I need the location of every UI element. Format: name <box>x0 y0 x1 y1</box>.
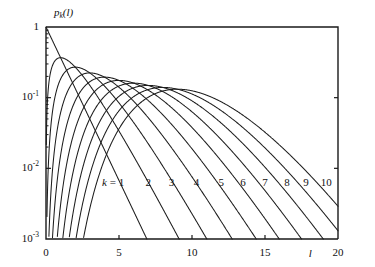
x-axis-title: l <box>309 247 312 259</box>
log-plot-canvas: 05101520110-110-210-3k = 12345678910pk(l… <box>0 0 375 267</box>
y-tick-label-1: 1 <box>34 20 40 32</box>
y-tick-label-0.001: 10-3 <box>22 230 39 244</box>
curve-k-9 <box>76 87 338 237</box>
curve-label-k-10: 10 <box>321 176 333 188</box>
y-tick-label-0.01: 10-2 <box>22 159 39 173</box>
curve-k-8 <box>69 85 323 239</box>
curve-k-6 <box>57 80 279 239</box>
curve-label-k-9: 9 <box>303 176 309 188</box>
curve-k-10 <box>84 89 338 237</box>
x-tick-label-20: 20 <box>333 246 345 258</box>
curve-label-k-4: 4 <box>194 176 200 188</box>
chart-figure: 05101520110-110-210-3k = 12345678910pk(l… <box>0 0 375 267</box>
x-tick-label-15: 15 <box>260 246 272 258</box>
curve-label-k-6: 6 <box>240 176 246 188</box>
y-tick-label-0.1: 10-1 <box>22 88 39 102</box>
curve-label-k-5: 5 <box>218 176 224 188</box>
curve-k-5 <box>52 77 256 239</box>
curve-label-k-2: 2 <box>145 176 151 188</box>
curve-k-3 <box>47 67 207 239</box>
curve-label-k-1: k = 1 <box>102 176 124 188</box>
x-tick-label-5: 5 <box>116 246 122 258</box>
curve-label-k-7: 7 <box>262 176 268 188</box>
curve-k-7 <box>63 83 302 239</box>
curve-k-1 <box>46 27 147 239</box>
x-tick-label-0: 0 <box>43 246 49 258</box>
x-tick-label-10: 10 <box>187 246 199 258</box>
curve-label-k-8: 8 <box>284 176 290 188</box>
y-axis-title: pk(l) <box>53 6 74 20</box>
curve-label-k-3: 3 <box>169 176 175 188</box>
